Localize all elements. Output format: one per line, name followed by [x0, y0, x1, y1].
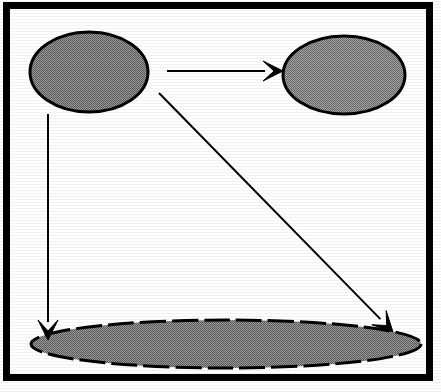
- diagram-svg: [0, 0, 441, 392]
- node-bottom[interactable]: [31, 320, 421, 368]
- node-top-left[interactable]: [30, 32, 148, 112]
- node-top-right[interactable]: [283, 36, 405, 114]
- node-bottom-ellipse[interactable]: [31, 320, 421, 368]
- node-top-left-ellipse[interactable]: [30, 32, 148, 112]
- figure-canvas: [0, 0, 441, 392]
- node-top-right-ellipse[interactable]: [283, 36, 405, 114]
